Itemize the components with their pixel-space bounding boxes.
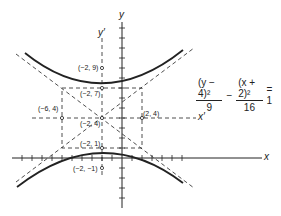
asymptote-negative-slope [16, 54, 194, 188]
y-axis-label: y [119, 10, 124, 20]
x-axis-label: x [264, 152, 269, 162]
y-prime-axis-label: y′ [98, 28, 105, 38]
x-term-denominator: 16 [244, 101, 255, 113]
point-label-vertex-focus-top: (−2, 9) [78, 64, 98, 71]
point-label-vertex-top: (−2, 7) [80, 90, 100, 97]
hyperbola-equation: (y − 4)² 9 − (x + 2)² 16 = 1 [196, 77, 281, 113]
y-term-numerator: (y − 4)² [196, 77, 222, 101]
y-term-denominator: 9 [206, 101, 212, 113]
point-label-focus-bottom: (−2, −1) [73, 165, 98, 172]
asymptote-positive-slope [16, 48, 194, 182]
fraction-x-term: (x + 2)² 16 [236, 77, 262, 113]
equals-one: = 1 [267, 84, 277, 106]
point-marker [100, 146, 103, 149]
point-label-center: (−2, 4) [80, 120, 100, 127]
point-marker [60, 116, 63, 119]
point-marker [100, 66, 103, 69]
point-label-right: (2, 4) [143, 110, 159, 117]
point-label-left: (−6, 4) [38, 105, 58, 112]
point-marker [100, 116, 103, 119]
point-label-vertex-bottom: (−2, 1) [80, 140, 100, 147]
point-marker [100, 166, 103, 169]
fraction-y-term: (y − 4)² 9 [196, 77, 222, 113]
point-marker [100, 86, 103, 89]
x-prime-axis-label: x′ [198, 112, 205, 122]
hyperbola-upper-branch [25, 50, 183, 83]
x-term-numerator: (x + 2)² [236, 77, 262, 101]
minus-sign: − [226, 90, 232, 101]
